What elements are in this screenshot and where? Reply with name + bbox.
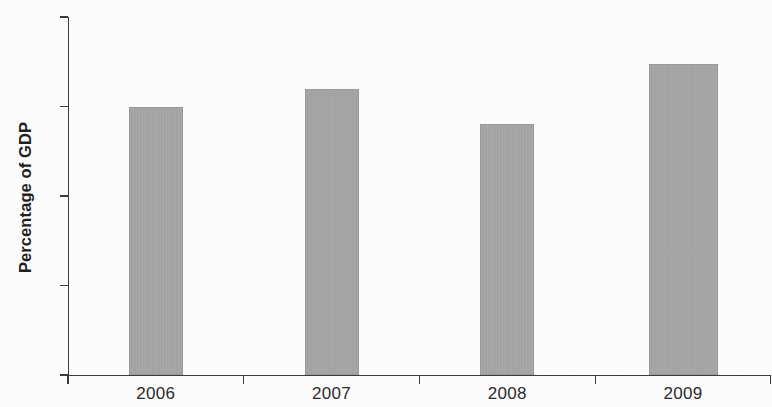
x-tick-mark-1 — [243, 375, 244, 384]
x-tick-label-2007: 2007 — [282, 384, 382, 404]
bar-2009 — [649, 64, 718, 375]
y-tick-mark-2 — [60, 195, 68, 196]
y-tick-mark-3 — [60, 106, 68, 107]
x-tick-mark-0 — [67, 375, 68, 384]
y-tick-mark-4 — [60, 16, 68, 17]
x-tick-mark-4 — [770, 375, 771, 384]
y-axis-line — [68, 17, 69, 376]
y-axis-title: Percentage of GDP — [16, 88, 35, 308]
x-tick-label-2006: 2006 — [106, 384, 206, 404]
bar-chart-figure: Percentage of GDP 4 3 2 1 0 2006 2007 20… — [0, 0, 772, 407]
bar-2008 — [480, 124, 534, 375]
bar-2007 — [305, 89, 359, 375]
x-tick-label-2009: 2009 — [633, 384, 733, 404]
x-tick-mark-2 — [419, 375, 420, 384]
x-tick-label-2008: 2008 — [457, 384, 557, 404]
x-tick-mark-3 — [595, 375, 596, 384]
y-tick-mark-1 — [60, 285, 68, 286]
bar-2006 — [129, 107, 183, 376]
